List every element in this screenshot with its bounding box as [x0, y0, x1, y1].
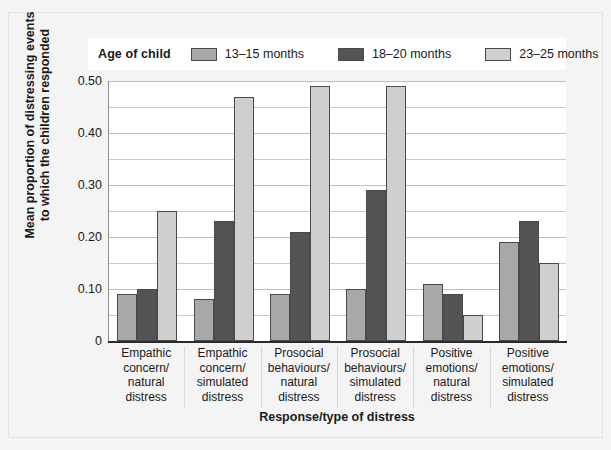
x-tick-label: Positiveemotions/simulateddistress: [490, 346, 566, 404]
bar[interactable]: [386, 86, 406, 341]
bar[interactable]: [310, 86, 330, 341]
bar[interactable]: [214, 221, 234, 341]
x-tick-label: Prosocialbehaviours/naturaldistress: [261, 346, 337, 404]
x-axis-separator: [261, 346, 262, 408]
y-axis-ticks: 00.100.200.300.400.50: [58, 0, 102, 450]
x-axis-category-labels: Empathicconcern/naturaldistressEmpathicc…: [108, 346, 566, 408]
x-tick-label-line: simulated: [184, 375, 260, 390]
x-tick-label-line: Positive: [490, 346, 566, 361]
bar[interactable]: [443, 294, 463, 341]
bar[interactable]: [499, 242, 519, 341]
legend-entry-23-25-months[interactable]: 23–25 months: [485, 47, 598, 61]
x-axis-line: [108, 341, 567, 343]
chart-figure: Age of child 13–15 months 18–20 months 2…: [0, 0, 611, 450]
legend-swatch-23-25-months: [485, 48, 511, 61]
x-tick-label-line: concern/: [184, 361, 260, 376]
y-tick-label: 0.20: [64, 230, 102, 244]
bar[interactable]: [234, 97, 254, 341]
legend-swatch-18-20-months: [338, 48, 364, 61]
x-tick-label-line: distress: [413, 390, 489, 405]
bar[interactable]: [290, 232, 310, 341]
legend-label-13-15-months: 13–15 months: [225, 47, 304, 61]
y-tick-label: 0.30: [64, 178, 102, 192]
y-axis-title: Mean proportion of distressing events to…: [23, 10, 53, 240]
x-tick-label-line: Positive: [413, 346, 489, 361]
bars-layer: [109, 81, 566, 341]
x-tick-label-line: distress: [184, 390, 260, 405]
x-tick-label-line: emotions/: [490, 361, 566, 376]
x-axis-separator: [413, 346, 414, 408]
bar[interactable]: [137, 289, 157, 341]
x-tick-label-line: emotions/: [413, 361, 489, 376]
chart-legend: Age of child 13–15 months 18–20 months 2…: [88, 38, 566, 70]
bar[interactable]: [194, 299, 214, 341]
x-tick-label-line: Prosocial: [261, 346, 337, 361]
x-tick-label: Prosocialbehaviours/simulateddistress: [337, 346, 413, 404]
legend-swatch-13-15-months: [191, 48, 217, 61]
x-tick-label-line: natural: [108, 375, 184, 390]
x-tick-label-line: behaviours/: [337, 361, 413, 376]
x-tick-label-line: Empathic: [108, 346, 184, 361]
bar[interactable]: [270, 294, 290, 341]
y-tick-label: 0: [64, 334, 102, 348]
x-tick-label-line: simulated: [337, 375, 413, 390]
legend-entry-13-15-months[interactable]: 13–15 months: [191, 47, 304, 61]
legend-entry-18-20-months[interactable]: 18–20 months: [338, 47, 451, 61]
y-tick-label: 0.40: [64, 126, 102, 140]
x-tick-label-line: concern/: [108, 361, 184, 376]
bar[interactable]: [463, 315, 483, 341]
x-tick-label-line: Empathic: [184, 346, 260, 361]
x-tick-label: Positiveemotions/naturaldistress: [413, 346, 489, 404]
plot-area: [108, 81, 566, 341]
x-axis-separator: [490, 346, 491, 408]
bar[interactable]: [366, 190, 386, 341]
bar[interactable]: [346, 289, 366, 341]
x-axis-title: Response/type of distress: [108, 410, 566, 424]
x-tick-label-line: Prosocial: [337, 346, 413, 361]
y-tick-label: 0.50: [64, 74, 102, 88]
x-tick-label-line: distress: [108, 390, 184, 405]
x-tick-label-line: natural: [413, 375, 489, 390]
x-axis-separator: [337, 346, 338, 408]
bar[interactable]: [423, 284, 443, 341]
bar[interactable]: [157, 211, 177, 341]
x-tick-label: Empathicconcern/naturaldistress: [108, 346, 184, 404]
legend-label-23-25-months: 23–25 months: [519, 47, 598, 61]
x-tick-label-line: distress: [490, 390, 566, 405]
y-tick-label: 0.10: [64, 282, 102, 296]
x-tick-label-line: distress: [337, 390, 413, 405]
x-tick-label-line: distress: [261, 390, 337, 405]
bar[interactable]: [117, 294, 137, 341]
x-tick-label: Empathicconcern/simulateddistress: [184, 346, 260, 404]
x-axis-separator: [184, 346, 185, 408]
x-tick-label-line: simulated: [490, 375, 566, 390]
bar[interactable]: [539, 263, 559, 341]
legend-title: Age of child: [98, 47, 171, 61]
bar[interactable]: [519, 221, 539, 341]
x-tick-label-line: natural: [261, 375, 337, 390]
x-tick-label-line: behaviours/: [261, 361, 337, 376]
legend-label-18-20-months: 18–20 months: [372, 47, 451, 61]
